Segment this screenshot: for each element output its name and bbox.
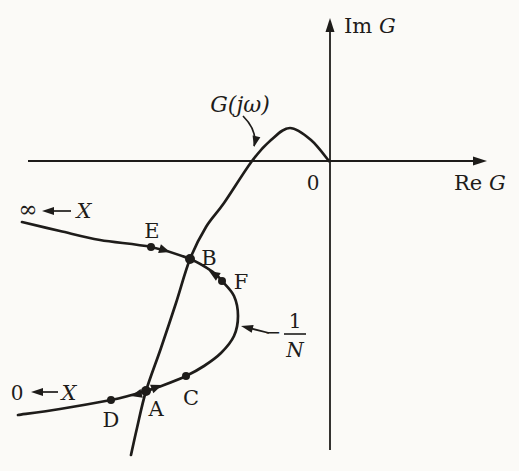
describing-function-nyquist-diagram: Im GRe G0G(jω)∞X0XEBFCAD−1N <box>0 0 519 471</box>
x-top-label: X <box>75 199 93 223</box>
inf-x-arrow-head-icon <box>42 207 54 215</box>
im-axis-head-icon <box>326 18 335 32</box>
label-E: E <box>144 219 159 243</box>
n-curve-label-denominator: N <box>285 338 305 362</box>
g-curve-label: G(jω) <box>210 92 270 117</box>
zero-x-arrow-head-icon <box>31 388 43 396</box>
label-F: F <box>234 270 249 294</box>
n-curve-label-minus: − <box>265 320 282 344</box>
label-C: C <box>183 386 199 410</box>
n-label-arrow-head-icon <box>240 322 254 333</box>
textbook-figure-page: Im GRe G0G(jω)∞X0XEBFCAD−1N <box>0 0 519 471</box>
label-D: D <box>103 408 120 432</box>
origin-label: 0 <box>307 171 320 195</box>
im-axis-label: Im G <box>344 14 396 38</box>
point-B-dot <box>185 254 195 264</box>
zero-left-label: 0 <box>11 381 24 405</box>
n-curve-label-numerator: 1 <box>289 309 302 333</box>
arrow-e-to-b-icon <box>158 244 171 256</box>
point-E-dot <box>147 243 155 251</box>
label-A: A <box>147 397 164 421</box>
g-label-arrow-shaft <box>243 116 255 146</box>
re-axis-label: Re G <box>454 171 506 195</box>
point-C-dot <box>182 372 190 380</box>
re-axis-head-icon <box>473 157 487 166</box>
point-D-dot <box>107 396 115 404</box>
x-bottom-label: X <box>60 381 78 405</box>
g-label-arrow-head-icon <box>250 135 260 148</box>
label-B: B <box>201 246 216 270</box>
inf-label: ∞ <box>18 196 37 222</box>
point-A-dot <box>141 386 151 396</box>
point-F-dot <box>218 277 226 285</box>
